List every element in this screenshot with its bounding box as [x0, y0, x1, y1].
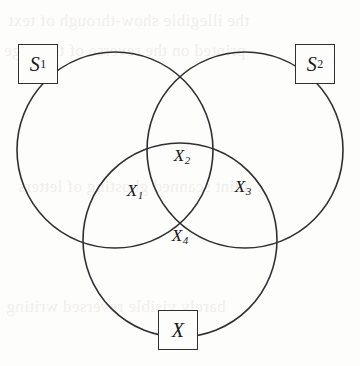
region-label-x2-subscript: 2 — [185, 155, 191, 167]
node-label-s2-base: S — [307, 54, 317, 74]
region-label-x4: X4 — [172, 227, 188, 246]
venn-figure: the illegible show-through of text print… — [0, 0, 360, 366]
node-label-s1-base: S — [30, 54, 40, 74]
region-label-x3: X3 — [235, 178, 251, 197]
node-box-s2[interactable]: S2 — [295, 44, 335, 84]
node-label-s1-subscript: 1 — [40, 58, 46, 70]
region-label-x1-base: X — [127, 181, 137, 200]
node-label-s2-subscript: 2 — [317, 58, 323, 70]
region-label-x4-base: X — [172, 226, 182, 245]
node-box-s1[interactable]: S1 — [18, 44, 58, 84]
region-label-x2-base: X — [174, 146, 184, 165]
region-label-x2: X2 — [174, 147, 190, 166]
region-label-x3-subscript: 3 — [246, 186, 252, 198]
region-label-x3-base: X — [235, 177, 245, 196]
node-label-x-base: X — [172, 320, 184, 340]
region-label-x1-subscript: 1 — [138, 190, 144, 202]
region-label-x4-subscript: 4 — [183, 235, 189, 247]
region-label-x1: X1 — [127, 182, 143, 201]
node-box-x[interactable]: X — [158, 310, 198, 350]
